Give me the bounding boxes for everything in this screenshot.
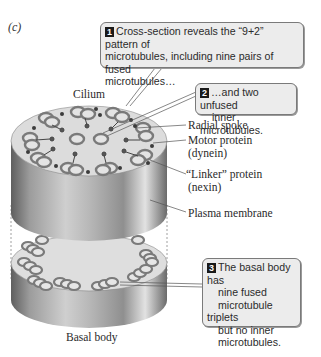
basal-body-label: Basal body: [66, 331, 117, 344]
callout-1-line-1: Cross-section reveals the “9+2” pattern …: [105, 25, 264, 50]
callout-2: 2…and two unfused inner microtubules.: [195, 83, 297, 115]
callout-1: 1Cross-section reveals the “9+2” pattern…: [100, 22, 304, 68]
callout-3-line-1: The basal body has: [207, 261, 290, 286]
basal-body-shape: [11, 235, 167, 328]
callout-3-line-3: microtubule triplets: [207, 299, 273, 324]
callout-3-line-5: microtubules.: [207, 336, 281, 348]
step-badge-1: 1: [105, 27, 114, 37]
linker-protein-label: “Linker” protein: [186, 168, 262, 181]
dynein-label: (dynein): [188, 147, 227, 160]
step-badge-2: 2: [200, 88, 209, 98]
callout-3: 3The basal body has nine fused microtubu…: [202, 258, 301, 327]
callout-3-line-4: but no inner: [207, 324, 274, 336]
nexin-label: (nexin): [188, 181, 221, 194]
cilium-shape: [11, 106, 167, 241]
callout-1-line-3: microtubules…: [105, 75, 176, 87]
callout-2-line-2: inner microtubules.: [200, 111, 263, 136]
step-badge-3: 3: [207, 263, 216, 273]
plasma-membrane-label: Plasma membrane: [188, 207, 273, 220]
callout-3-line-2: nine fused: [207, 286, 267, 298]
cilium-label: Cilium: [73, 88, 105, 101]
panel-label: (c): [8, 20, 21, 35]
